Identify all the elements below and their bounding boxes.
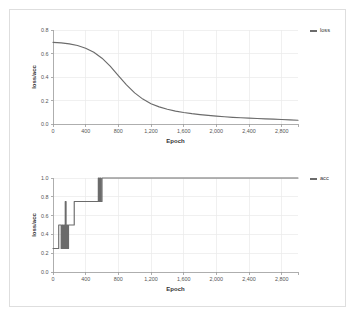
y-tick-label: 0.6 [41, 51, 49, 57]
x-tick-label: 2,000 [210, 128, 224, 134]
x-tick-label: 2,800 [275, 276, 289, 282]
x-tick-label: 400 [81, 276, 90, 282]
acc-chart: 04008001,2001,6002,0002,4002,8000.00.20.… [10, 156, 347, 305]
legend-label-acc: acc [320, 175, 329, 181]
y-tick-label: 0.8 [41, 27, 49, 33]
x-tick-label: 400 [81, 128, 90, 134]
x-axis-title: Epoch [166, 286, 185, 292]
x-tick-label: 1,600 [177, 276, 191, 282]
figure-panel: 04008001,2001,6002,0002,4002,8000.00.20.… [9, 9, 346, 307]
x-tick-label: 800 [114, 276, 123, 282]
y-tick-label: 0.0 [41, 269, 49, 275]
y-axis-title: loss/acc [31, 212, 37, 236]
y-tick-label: 0.2 [41, 250, 49, 256]
series-line-acc [53, 178, 298, 249]
legend-label-loss: loss [320, 27, 330, 33]
x-tick-label: 1,600 [177, 128, 191, 134]
y-tick-label: 0.6 [41, 213, 49, 219]
x-tick-label: 2,400 [242, 128, 256, 134]
y-tick-label: 0.8 [41, 194, 49, 200]
y-tick-label: 0.4 [41, 231, 49, 237]
x-tick-label: 2,000 [210, 276, 224, 282]
acc-chart-plot: 04008001,2001,6002,0002,4002,8000.00.20.… [10, 156, 347, 308]
x-tick-label: 0 [52, 276, 55, 282]
x-tick-label: 800 [114, 128, 123, 134]
y-tick-label: 0.0 [41, 121, 49, 127]
x-tick-label: 0 [52, 128, 55, 134]
y-tick-label: 1.0 [41, 175, 49, 181]
series-line-loss [53, 42, 298, 120]
loss-chart-plot: 04008001,2001,6002,0002,4002,8000.00.20.… [10, 10, 347, 159]
x-tick-label: 1,200 [144, 128, 158, 134]
x-axis-title: Epoch [166, 138, 185, 144]
y-tick-label: 0.4 [41, 74, 49, 80]
y-axis-title: loss/acc [31, 64, 37, 88]
x-tick-label: 2,400 [242, 276, 256, 282]
loss-chart: 04008001,2001,6002,0002,4002,8000.00.20.… [10, 10, 347, 159]
y-tick-label: 0.2 [41, 98, 49, 104]
x-tick-label: 1,200 [144, 276, 158, 282]
x-tick-label: 2,800 [275, 128, 289, 134]
